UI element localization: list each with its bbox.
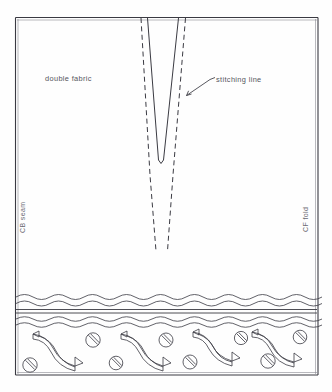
double-fabric-label: double fabric [45,74,92,83]
disc-motif [293,330,307,344]
disc-slash [88,334,99,345]
dart-right-leg [161,18,179,164]
cf-fold-label: CF fold [302,207,309,232]
disc-motif [86,333,100,347]
ribbon-band-inner [127,336,163,367]
disc-slash [296,331,306,341]
disc-slash [25,359,36,370]
leader-stroke [187,80,211,96]
disc-slash [112,357,122,367]
ribbon-band-outer [252,332,294,367]
trim-band-group [16,295,322,328]
ribbon-motif [252,329,302,367]
trim-wave-upper-a [16,295,322,300]
disc-motif [159,333,173,347]
decorative-band-group [23,329,307,372]
dart-right-stitching-line [168,18,186,251]
stitching-line-label: stitching line [216,75,262,84]
disc-slash [162,334,173,344]
disc-motif [183,355,197,369]
trim-wave-lower-a [16,317,322,322]
trim-wave-lower-b [16,323,322,328]
ribbon-motif [33,331,83,371]
dart-left-stitching-line [141,18,156,251]
ribbon-band-outer [193,332,232,366]
disc-motif [109,356,123,370]
dart-group [141,18,186,251]
pattern-frame [16,18,319,376]
trim-wave-upper-b [16,301,322,306]
ribbon-band-outer [33,334,75,371]
disc-slash [263,355,274,366]
disc-motif [234,331,247,344]
ribbon-band-inner [258,334,294,363]
pattern-diagram: double fabric stitching line CB seam CF … [0,0,332,392]
disc-motif [261,354,275,368]
ribbon-band-outer [121,334,163,371]
ribbon-band-inner [39,336,75,367]
stitching-line-leader [187,78,216,96]
disc-slash [237,333,247,343]
pattern-drawing-canvas: double fabric stitching line CB seam CF … [0,0,332,392]
disc-slash [186,356,197,366]
ribbon-arrow-head [232,352,240,361]
leader-arrowhead [187,91,192,96]
disc-motif [23,358,37,372]
ribbon-arrow-head [163,357,171,366]
ribbon-arrow-head [75,357,83,366]
cb-seam-label: CB seam [19,201,26,233]
ribbon-motif [193,329,240,366]
ribbon-band-inner [198,334,232,362]
leader-tail [210,78,215,80]
dart-left-leg [148,18,162,164]
ribbon-arrow-head [294,353,302,362]
